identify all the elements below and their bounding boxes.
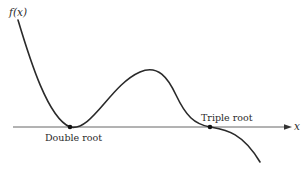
function-plot: f(x) x Double root Triple root bbox=[0, 0, 307, 171]
triple-root-point bbox=[208, 125, 213, 130]
double-root-label: Double root bbox=[45, 132, 102, 143]
triple-root-label: Triple root bbox=[201, 112, 253, 123]
x-axis-arrowhead-icon bbox=[284, 124, 292, 129]
x-axis-label: x bbox=[294, 120, 300, 132]
y-axis-label: f(x) bbox=[8, 6, 27, 18]
double-root-point bbox=[68, 125, 73, 130]
